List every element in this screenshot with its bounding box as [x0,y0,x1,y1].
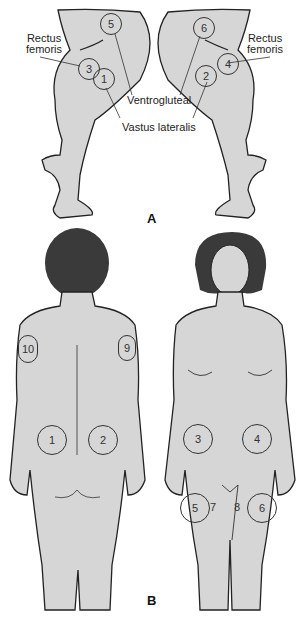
front-site-marker-6: 6 [247,493,277,523]
front-site-marker-5: 5 [180,493,210,523]
site-marker-5: 5 [100,13,122,35]
label-rectus-femoris-right: Rectus femoris [247,33,283,55]
back-figure [10,228,145,610]
injection-sites-illustration [0,0,307,619]
site-marker-2: 2 [195,65,217,87]
panel-label-b: B [147,593,156,608]
site-marker-1: 1 [93,68,115,90]
back-site-marker-10: 10 [18,335,38,363]
back-site-marker-1: 1 [37,425,67,455]
label-vastus-lateralis: Vastus lateralis [122,122,196,133]
panel-label-a: A [147,211,156,226]
label-text: Rectus femoris [26,33,62,55]
back-site-marker-2: 2 [88,425,118,455]
label-rectus-femoris-left: Rectus femoris [26,33,62,55]
front-figure [165,232,295,610]
label-text: Rectus femoris [247,33,283,55]
front-site-marker-4: 4 [242,424,272,454]
site-marker-4: 4 [217,53,239,75]
front-site-marker-8: 8 [234,501,240,513]
label-ventrogluteal: Ventrogluteal [127,95,191,106]
site-marker-6: 6 [193,17,215,39]
front-site-marker-7: 7 [210,501,216,513]
front-site-marker-3: 3 [183,424,213,454]
back-site-marker-9: 9 [118,335,136,361]
